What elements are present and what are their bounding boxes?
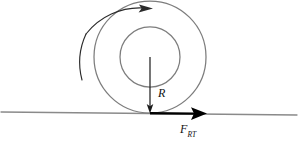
rotation-direction-arc: [80, 34, 86, 80]
wheel-force-diagram: R F RT: [0, 0, 306, 149]
physics-diagram-canvas: R F RT: [0, 0, 306, 149]
force-label-subscript: RT: [187, 130, 198, 139]
force-label: F RT: [179, 122, 197, 139]
rotation-direction-arc: [86, 8, 143, 34]
rotation-arrowhead-icon: [139, 5, 153, 13]
radius-label: R: [157, 86, 166, 100]
